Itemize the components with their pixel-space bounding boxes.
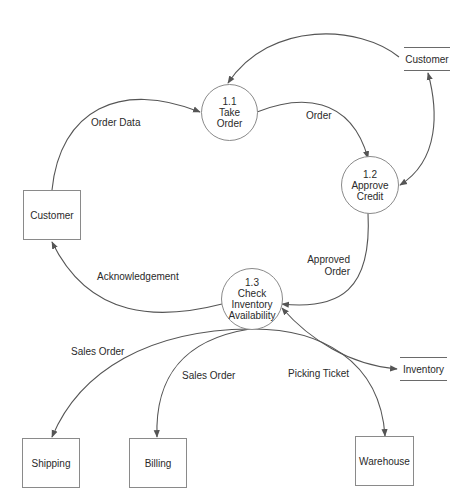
- flow-sales-order-billing: [157, 329, 250, 437]
- process-number: 1.3: [245, 277, 259, 288]
- process-take-order: 1.1 Take Order: [201, 84, 258, 141]
- flow-label-approved-order-1: Approved: [306, 254, 350, 266]
- flow-label-sales-order-shipping: Sales Order: [71, 346, 124, 358]
- process-label: Order: [217, 118, 243, 129]
- flow-customer-store-to-take-order: [228, 34, 399, 83]
- process-label: Check: [238, 288, 266, 299]
- flow-label-sales-order-billing: Sales Order: [182, 370, 235, 382]
- flow-inventory: [282, 308, 397, 369]
- flow-label-picking-ticket: Picking Ticket: [288, 368, 349, 380]
- store-label: Customer: [405, 54, 448, 65]
- process-number: 1.2: [363, 169, 377, 180]
- flow-label-order: Order: [306, 110, 332, 122]
- flow-lines: [0, 0, 470, 504]
- store-customer: Customer: [404, 47, 450, 71]
- entity-label: Customer: [30, 210, 73, 221]
- entity-label: Warehouse: [359, 456, 410, 467]
- flow-picking-ticket: [250, 329, 385, 436]
- process-approve-credit: 1.2 Approve Credit: [341, 156, 399, 214]
- process-number: 1.1: [223, 96, 237, 107]
- store-inventory: Inventory: [400, 357, 447, 381]
- flow-credit-to-customer-store: [400, 73, 434, 185]
- process-label: Credit: [357, 191, 384, 202]
- store-label: Inventory: [403, 364, 444, 375]
- entity-customer: Customer: [23, 190, 81, 240]
- entity-shipping: Shipping: [22, 438, 80, 488]
- entity-warehouse: Warehouse: [355, 436, 414, 486]
- process-label: Availability: [228, 310, 275, 321]
- flow-label-acknowledgement: Acknowledgement: [97, 271, 179, 283]
- entity-label: Billing: [145, 458, 172, 469]
- entity-billing: Billing: [129, 438, 187, 488]
- process-check-inventory: 1.3 Check Inventory Availability: [221, 268, 283, 330]
- flow-label-approved-order-2: Order: [306, 266, 350, 278]
- process-label: Take: [219, 107, 240, 118]
- process-label: Approve: [351, 180, 388, 191]
- entity-label: Shipping: [32, 458, 71, 469]
- process-label: Inventory: [231, 299, 272, 310]
- flow-label-order-data: Order Data: [91, 117, 140, 129]
- flow-order-data: [52, 99, 200, 190]
